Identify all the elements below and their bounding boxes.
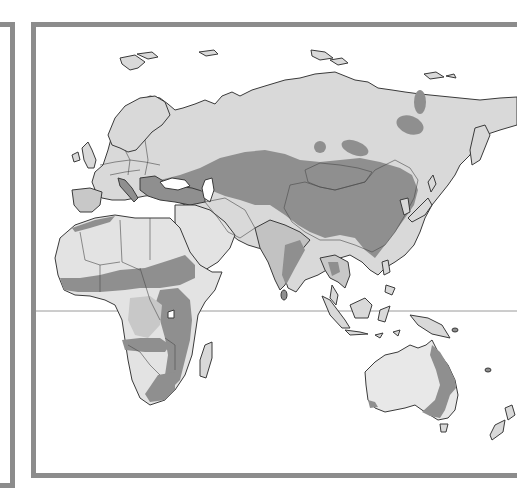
new-zealand — [490, 405, 515, 440]
sri-lanka — [281, 290, 287, 300]
central-africa-dark — [122, 338, 170, 352]
indonesia — [322, 296, 450, 338]
lake-victoria — [168, 310, 174, 318]
world-map — [0, 0, 517, 496]
iberia — [72, 188, 102, 212]
madagascar — [200, 342, 212, 378]
philippines — [382, 260, 395, 295]
pacific-islands — [452, 328, 491, 372]
british-isles — [72, 142, 96, 168]
tasmania — [440, 424, 448, 432]
arctic-islands — [120, 50, 456, 79]
